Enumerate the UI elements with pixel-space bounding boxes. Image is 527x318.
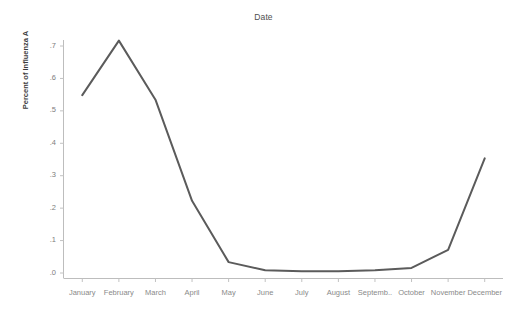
- y-axis-tick-label: .5: [36, 105, 56, 114]
- y-axis-tick-label: .4: [36, 138, 56, 147]
- y-axis-tick-label: .7: [36, 41, 56, 50]
- y-axis-tick-label: .3: [36, 170, 56, 179]
- y-axis-tick-label: .2: [36, 203, 56, 212]
- x-axis-tick-label: December: [455, 288, 515, 297]
- x-axis-ticks: [82, 279, 484, 283]
- data-line-percent-influenza-a: [82, 41, 484, 272]
- plot-area: [0, 0, 527, 318]
- y-axis-tick-label: .1: [36, 235, 56, 244]
- y-axis-tick-label: .6: [36, 73, 56, 82]
- y-axis-tick-label: .0: [36, 268, 56, 277]
- line-chart: Date Percent of Influenza A .0.1.2.3.4.5…: [0, 0, 527, 318]
